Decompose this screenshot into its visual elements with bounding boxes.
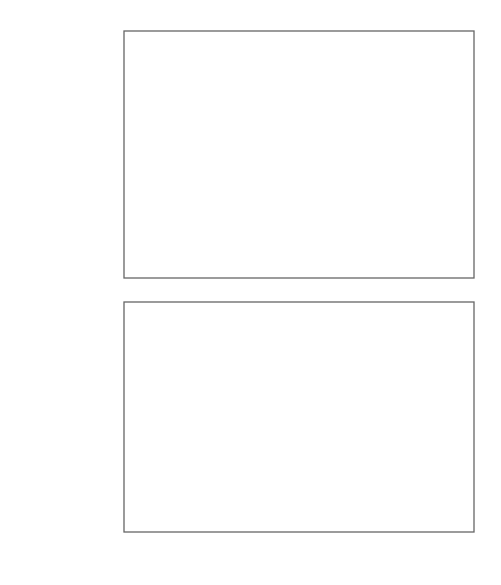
figure — [0, 0, 501, 585]
bottom-chart-panel — [46, 302, 474, 532]
bottom-chart-frame — [124, 302, 474, 532]
top-chart-frame — [124, 31, 474, 278]
top-chart-panel — [68, 31, 474, 278]
